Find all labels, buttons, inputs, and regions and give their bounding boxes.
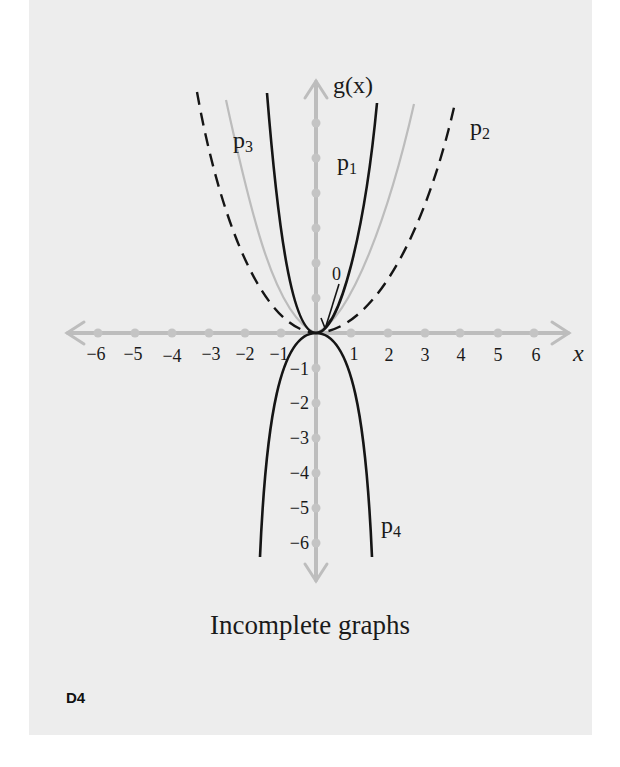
label-p4: p4 bbox=[381, 512, 401, 540]
x-tick-labels: −6 −5 −4 −3 −2 −1 1 2 3 4 5 6 bbox=[86, 344, 540, 366]
svg-text:−1: −1 bbox=[290, 359, 309, 379]
y-tick-labels: −1 −2 −3 −4 −5 −6 bbox=[290, 359, 309, 553]
svg-text:3: 3 bbox=[421, 345, 430, 365]
svg-text:6: 6 bbox=[532, 345, 541, 365]
svg-text:2: 2 bbox=[385, 345, 394, 365]
svg-text:−3: −3 bbox=[201, 344, 220, 364]
svg-text:−6: −6 bbox=[290, 533, 309, 553]
label-p3: p3 bbox=[233, 127, 253, 155]
function-graph: g(x) x 0 p3 p1 p2 p4 −6 −5 −4 −3 −2 −1 1… bbox=[0, 0, 620, 767]
svg-text:4: 4 bbox=[457, 345, 466, 365]
label-p2: p2 bbox=[470, 114, 490, 142]
svg-text:−4: −4 bbox=[290, 463, 309, 483]
svg-text:−1: −1 bbox=[269, 344, 288, 364]
page-tag: D4 bbox=[66, 689, 85, 706]
svg-text:−2: −2 bbox=[290, 393, 309, 413]
svg-text:−5: −5 bbox=[290, 498, 309, 518]
svg-text:−4: −4 bbox=[162, 346, 181, 366]
svg-text:−2: −2 bbox=[235, 344, 254, 364]
y-axis-label: g(x) bbox=[333, 72, 373, 98]
svg-text:1: 1 bbox=[350, 344, 359, 364]
label-p1: p1 bbox=[337, 149, 357, 177]
svg-text:5: 5 bbox=[494, 345, 503, 365]
x-axis-label: x bbox=[572, 340, 584, 366]
figure-caption: Incomplete graphs bbox=[0, 610, 620, 641]
svg-text:−6: −6 bbox=[86, 344, 105, 364]
svg-text:−5: −5 bbox=[123, 344, 142, 364]
svg-text:−3: −3 bbox=[290, 428, 309, 448]
origin-label: 0 bbox=[332, 264, 341, 284]
